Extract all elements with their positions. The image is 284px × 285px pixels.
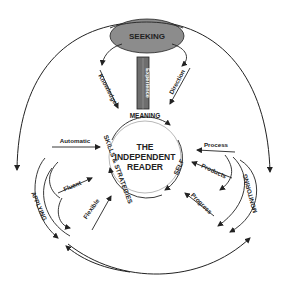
- automatic-label: Automatic: [60, 137, 91, 144]
- progress-label: Progress: [190, 191, 214, 215]
- applying-cluster: Automatic Fluent Flexible APPLYING: [30, 137, 111, 238]
- meaning-label: MEANING: [130, 112, 161, 119]
- products-label: Products: [200, 162, 228, 180]
- independent-reader-diagram: SEEKING Experience Knowledge Direction M…: [0, 0, 284, 285]
- process-label: Process: [204, 141, 229, 148]
- center-title: THE INDEPENDENT READER: [115, 142, 177, 172]
- experience-bar: Experience: [137, 57, 151, 110]
- flexible-label: Flexible: [81, 197, 100, 220]
- monitoring-cluster: Process Products Progress MONITORING: [185, 141, 258, 232]
- experience-label: Experience: [145, 68, 151, 98]
- fluent-label: Fluent: [62, 179, 82, 192]
- svg-text:READER: READER: [127, 162, 163, 172]
- knowledge-label: Knowledge: [97, 73, 119, 106]
- svg-text:THE: THE: [137, 142, 154, 152]
- arc-applying-monitoring: [68, 238, 250, 274]
- seeking-label: SEEKING: [129, 32, 165, 41]
- svg-text:INDEPENDENT: INDEPENDENT: [115, 152, 177, 162]
